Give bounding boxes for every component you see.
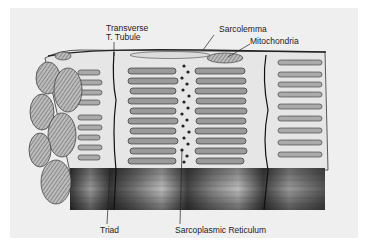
label-triad: Triad — [100, 226, 119, 235]
mitochondrion-center — [207, 53, 243, 63]
muscle-fiber-illustration — [0, 0, 366, 251]
mitochondrion-left — [55, 52, 71, 60]
label-sarcoplasmic-reticulum: Sarcoplasmic Reticulum — [175, 226, 266, 235]
label-sarcolemma: Sarcolemma — [219, 25, 267, 34]
label-t-tubule: T. Tubule — [106, 33, 141, 42]
label-mitochondria: Mitochondria — [250, 37, 299, 46]
